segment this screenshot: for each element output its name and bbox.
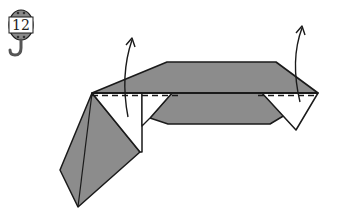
step-tag: 12 [9,10,33,55]
hook-icon [10,40,21,55]
left-flap [60,93,142,207]
step-number: 12 [12,17,30,33]
lower-trapezoid [142,93,285,126]
origami-diagram: 12 [0,0,353,216]
